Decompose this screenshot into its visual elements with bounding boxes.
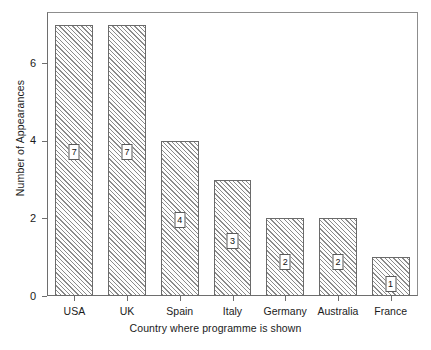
bars-area: 7743221 — [48, 13, 417, 296]
x-tick-mark — [233, 296, 234, 301]
x-axis-title: Country where programme is shown — [0, 322, 431, 335]
bar-slot: 3 — [214, 13, 252, 296]
bar-value-label: 7 — [69, 144, 80, 160]
y-tick-label: 6 — [18, 58, 36, 69]
x-tick-mark — [180, 296, 181, 301]
x-tick-label: Italy — [223, 305, 242, 317]
bar[interactable]: 2 — [319, 218, 357, 296]
bar[interactable]: 2 — [266, 218, 304, 296]
bar-value-label: 2 — [332, 254, 343, 270]
bar-slot: 7 — [108, 13, 146, 296]
bar-slot: 1 — [372, 13, 410, 296]
bar-chart: Number of Appearances 0246 7743221 USAUK… — [0, 0, 431, 350]
bar-slot: 7 — [55, 13, 93, 296]
y-tick-label: 0 — [18, 291, 36, 302]
x-tick-label: Australia — [317, 305, 358, 317]
bar[interactable]: 1 — [372, 257, 410, 296]
bar-slot: 4 — [161, 13, 199, 296]
x-tick-label: UK — [120, 305, 135, 317]
y-tick-label: 2 — [18, 213, 36, 224]
bar-value-label: 4 — [174, 212, 185, 228]
x-tick-label: France — [374, 305, 407, 317]
y-tick-mark — [42, 296, 47, 297]
x-tick-mark — [74, 296, 75, 301]
y-tick-label: 4 — [18, 135, 36, 146]
bar-slot: 2 — [266, 13, 304, 296]
bar-value-label: 7 — [122, 144, 133, 160]
bar[interactable]: 7 — [55, 25, 93, 296]
bar-value-label: 2 — [280, 254, 291, 270]
bar-value-label: 3 — [227, 233, 238, 249]
x-tick-mark — [285, 296, 286, 301]
bar-slot: 2 — [319, 13, 357, 296]
bar[interactable]: 7 — [108, 25, 146, 296]
x-tick-label: Germany — [264, 305, 307, 317]
bar[interactable]: 3 — [214, 180, 252, 296]
x-tick-mark — [391, 296, 392, 301]
x-tick-mark — [127, 296, 128, 301]
bar[interactable]: 4 — [161, 141, 199, 296]
bar-value-label: 1 — [385, 276, 396, 292]
x-tick-label: USA — [64, 305, 86, 317]
x-tick-label: Spain — [166, 305, 193, 317]
x-tick-mark — [338, 296, 339, 301]
